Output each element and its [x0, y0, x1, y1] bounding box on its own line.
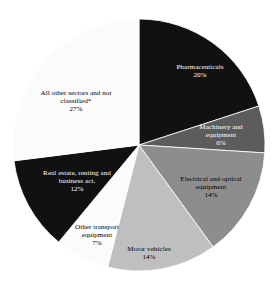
- slice-label-all-other-sectors-value: 27%: [18, 106, 134, 114]
- slice-label-machinery-and-equipment: Machinery and equipment 6%: [176, 124, 266, 148]
- slice-label-electrical-and-optical-equipment: Electrical and optical equipment 14%: [160, 176, 262, 200]
- slice-label-motor-vehicles: Motor vehicles 14%: [104, 246, 194, 262]
- slice-label-real-estate-renting-and-business-act: Real estate, renting and business act. 1…: [22, 170, 132, 194]
- pie-chart: Pharmaceuticals 20% Machinery and equipm…: [0, 0, 279, 291]
- slice-label-real-estate-value: 12%: [22, 186, 132, 194]
- slice-label-machinery-and-equipment-value: 6%: [176, 140, 266, 148]
- slice-label-all-other-sectors-and-not-classified: All other sectors and not classified* 27…: [18, 90, 134, 114]
- slice-label-pharmaceuticals-value: 20%: [152, 72, 248, 80]
- slice-label-electrical-and-optical-equipment-value: 14%: [160, 192, 262, 200]
- slice-label-pharmaceuticals: Pharmaceuticals 20%: [152, 64, 248, 80]
- slice-label-other-transport-equipment-value: 7%: [54, 240, 140, 248]
- slice-label-motor-vehicles-value: 14%: [104, 254, 194, 262]
- slice-label-other-transport-equipment: Other transport equipment 7%: [54, 224, 140, 248]
